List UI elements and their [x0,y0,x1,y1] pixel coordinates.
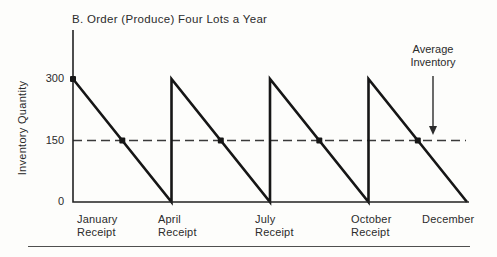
x-tick-december: December [422,213,474,226]
footer-rule [28,246,470,247]
x-tick-line1: December [422,213,474,226]
x-tick-january: January Receipt [77,213,118,238]
data-point-marker [119,138,125,144]
y-axis-label: Inventory Quantity [16,77,30,179]
x-tick-line2: Receipt [351,226,392,239]
x-tick-line1: October [351,213,392,226]
average-inventory-arrowhead [429,126,437,135]
x-tick-line1: July [255,213,294,226]
data-point-marker [415,138,421,144]
x-tick-line2: Receipt [158,226,197,239]
y-tick-300: 300 [36,72,64,85]
x-tick-line1: January [77,213,118,226]
x-tick-july: July Receipt [255,213,294,238]
x-tick-april: April Receipt [158,213,197,238]
data-point-marker [218,138,224,144]
x-tick-line2: Receipt [77,226,118,239]
y-tick-150: 150 [36,134,64,147]
chart-title: B. Order (Produce) Four Lots a Year [72,13,267,25]
average-inventory-label: Average Inventory [398,43,468,69]
data-point-marker [70,76,76,82]
x-tick-october: October Receipt [351,213,392,238]
x-tick-line1: April [158,213,197,226]
inventory-order-chart-figure: B. Order (Produce) Four Lots a Year Inve… [0,0,497,257]
x-tick-line2: Receipt [255,226,294,239]
data-point-marker [316,138,322,144]
y-tick-0: 0 [36,195,64,208]
